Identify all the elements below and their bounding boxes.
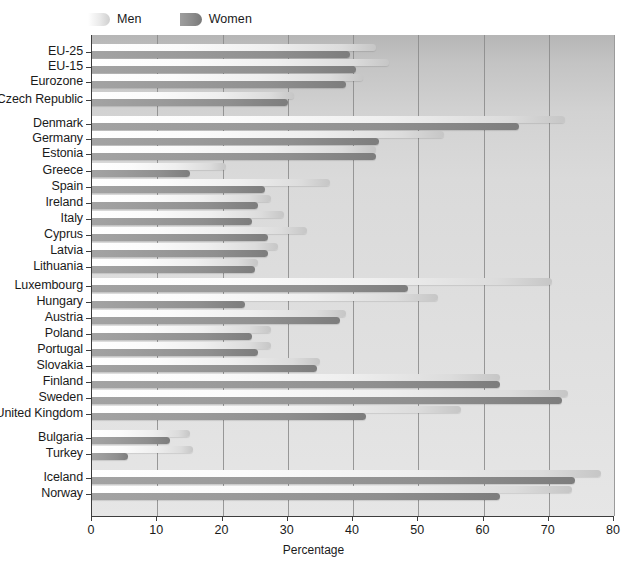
category-label: Cyprus — [44, 227, 83, 241]
bar-group — [92, 116, 614, 131]
bar-women — [92, 349, 258, 356]
category-label: Italy — [61, 211, 83, 225]
bar-men — [92, 243, 278, 250]
x-axis-tick — [548, 516, 549, 521]
category-label: United Kingdom — [0, 406, 83, 420]
category-label: Eurozone — [30, 74, 83, 88]
bar-women — [92, 285, 408, 292]
bar-women — [92, 413, 366, 420]
legend-item-women: Women — [180, 12, 252, 26]
gridline — [614, 35, 615, 516]
bar-men — [92, 446, 193, 453]
y-axis-tick — [86, 494, 91, 495]
x-axis-tick — [222, 516, 223, 521]
bar-women — [92, 333, 252, 340]
bar-men — [92, 44, 376, 51]
category-label: EU-15 — [48, 59, 83, 73]
bar-men — [92, 259, 258, 266]
bar-women — [92, 186, 265, 193]
bar-men — [92, 92, 294, 99]
bar-group — [92, 59, 614, 74]
x-axis-tick — [287, 516, 288, 521]
x-axis-tick-label: 20 — [215, 523, 229, 537]
y-axis-tick — [86, 154, 91, 155]
bar-women — [92, 266, 255, 273]
bar-women — [92, 51, 350, 58]
y-axis-tick — [86, 454, 91, 455]
bar-group — [92, 446, 614, 461]
men-swatch-icon — [88, 13, 110, 26]
bar-group — [92, 179, 614, 194]
y-axis-tick — [86, 478, 91, 479]
bar-men — [92, 486, 572, 493]
category-labels: EU-25EU-15EurozoneCzech RepublicDenmarkG… — [0, 35, 88, 516]
bar-women — [92, 317, 340, 324]
y-axis-tick — [86, 251, 91, 252]
bar-men — [92, 390, 568, 397]
y-axis-tick — [86, 100, 91, 101]
bar-group — [92, 163, 614, 178]
category-label: Greece — [43, 163, 83, 177]
bar-men — [92, 131, 444, 138]
bar-women — [92, 301, 245, 308]
y-axis-tick — [86, 52, 91, 53]
bar-women — [92, 81, 346, 88]
bar-women — [92, 123, 519, 130]
y-axis-tick — [86, 414, 91, 415]
bar-men — [92, 195, 271, 202]
y-axis-tick — [86, 187, 91, 188]
bar-men — [92, 59, 389, 66]
bar-group — [92, 44, 614, 59]
category-label: Hungary — [36, 294, 83, 308]
legend-label-women: Women — [209, 12, 252, 26]
x-axis-tick-label: 10 — [149, 523, 163, 537]
bar-men — [92, 179, 330, 186]
x-axis-title: Percentage — [0, 543, 627, 557]
x-axis-tick — [156, 516, 157, 521]
bar-men — [92, 326, 271, 333]
bar-group — [92, 278, 614, 293]
bar-women — [92, 138, 379, 145]
x-axis-tick — [91, 516, 92, 521]
chart-legend: Men Women — [88, 8, 252, 30]
bar-group — [92, 358, 614, 373]
bar-group — [92, 92, 614, 107]
bar-group — [92, 131, 614, 146]
bar-men — [92, 74, 363, 81]
y-axis-tick — [86, 382, 91, 383]
bar-women — [92, 365, 317, 372]
category-label: Finland — [43, 374, 83, 388]
y-axis-tick — [86, 124, 91, 125]
y-axis-tick — [86, 318, 91, 319]
x-axis-tick-label: 50 — [410, 523, 424, 537]
bar-men — [92, 430, 190, 437]
bar-men — [92, 211, 284, 218]
category-label: Turkey — [46, 446, 83, 460]
y-axis-tick — [86, 139, 91, 140]
category-label: Germany — [32, 131, 83, 145]
bar-group — [92, 74, 614, 89]
bar-men — [92, 227, 307, 234]
category-label: Slovakia — [37, 358, 83, 372]
y-axis-tick — [86, 334, 91, 335]
bar-men — [92, 278, 552, 285]
y-axis-tick — [86, 366, 91, 367]
y-axis-tick — [86, 267, 91, 268]
x-axis-tick — [352, 516, 353, 521]
x-axis-tick-label: 60 — [476, 523, 490, 537]
bar-women — [92, 153, 376, 160]
bar-group — [92, 195, 614, 210]
bar-group — [92, 470, 614, 485]
category-label: Denmark — [33, 116, 83, 130]
legend-item-men: Men — [88, 12, 142, 26]
bar-women — [92, 99, 288, 106]
y-axis-tick — [86, 171, 91, 172]
x-axis-tick-label: 70 — [541, 523, 555, 537]
category-label: EU-25 — [48, 44, 83, 58]
bar-men — [92, 406, 461, 413]
y-axis-tick — [86, 438, 91, 439]
y-axis-tick — [86, 67, 91, 68]
bar-group — [92, 146, 614, 161]
category-label: Latvia — [50, 243, 83, 257]
category-label: Portugal — [37, 342, 83, 356]
